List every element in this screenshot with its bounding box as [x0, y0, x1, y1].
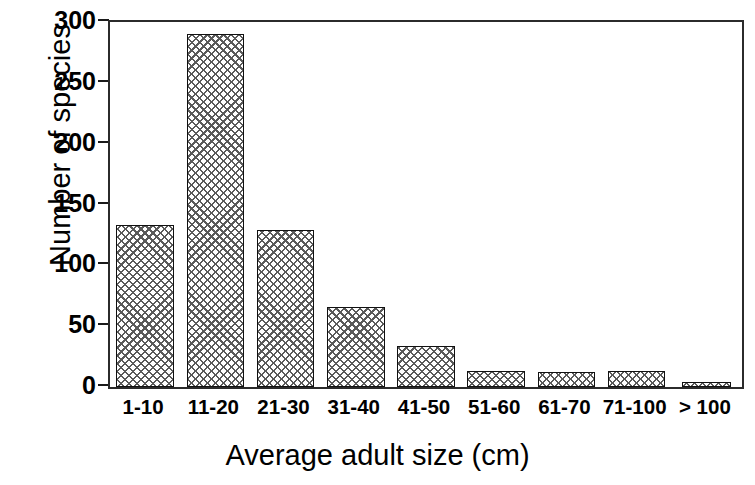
bar [608, 371, 666, 387]
bar-slot [531, 22, 601, 387]
x-tick-label: 41-50 [389, 392, 459, 426]
x-tick-label: 51-60 [459, 392, 529, 426]
y-tick-label: 150 [0, 191, 96, 216]
bar-slot [110, 22, 180, 387]
x-tick-label: 1-10 [108, 392, 178, 426]
x-tick-label: 31-40 [319, 392, 389, 426]
x-tick-label: 61-70 [529, 392, 599, 426]
x-tick-label: 11-20 [178, 392, 248, 426]
bar-slot [602, 22, 672, 387]
x-axis-title: Average adult size (cm) [0, 437, 755, 473]
bar-slot [391, 22, 461, 387]
y-axis-tick-labels: 0 50 100 150 200 250 300 [0, 0, 96, 400]
bar-series [110, 22, 742, 387]
x-tick-label: > 100 [670, 392, 740, 426]
y-tick-label: 50 [0, 312, 96, 337]
x-tick-label: 21-30 [248, 392, 318, 426]
bar [397, 346, 455, 387]
bar-slot [321, 22, 391, 387]
y-tick-label: 250 [0, 69, 96, 94]
y-tick-label: 300 [0, 8, 96, 33]
bar [538, 372, 596, 387]
bar-slot [180, 22, 250, 387]
bar-slot [250, 22, 320, 387]
y-tick-label: 200 [0, 130, 96, 155]
x-axis-tick-labels: 1-10 11-20 21-30 31-40 41-50 51-60 61-70… [108, 392, 740, 426]
y-tick-label: 0 [0, 373, 96, 398]
chart-figure: Number of species 0 50 100 150 200 250 3… [0, 0, 755, 485]
bar-slot [672, 22, 742, 387]
x-tick-label: 71-100 [600, 392, 670, 426]
bar [116, 225, 174, 387]
plot-area [108, 20, 744, 389]
bar [467, 371, 525, 387]
bar [257, 230, 315, 387]
bar [327, 307, 385, 387]
bar-slot [461, 22, 531, 387]
y-tick-label: 100 [0, 251, 96, 276]
bar [187, 34, 245, 387]
bar [682, 382, 731, 387]
